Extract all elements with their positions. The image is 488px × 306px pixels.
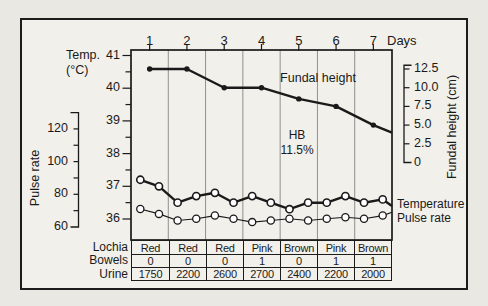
table-cell-lochia: Brown bbox=[280, 241, 317, 254]
table-cell-urine: 2200 bbox=[317, 267, 354, 280]
open-circle-marker bbox=[211, 189, 218, 196]
open-circle-marker bbox=[249, 218, 256, 225]
table-cell-urine: 1750 bbox=[132, 267, 169, 280]
temp-axis-unit: (°C) bbox=[66, 63, 88, 78]
table-cell-bowels: 1 bbox=[317, 254, 354, 267]
pulse-tick-label: 120 bbox=[38, 121, 68, 136]
table-cell-lochia: Pink bbox=[243, 241, 280, 254]
table-cell-lochia: Pink bbox=[317, 241, 354, 254]
open-circle-marker bbox=[379, 196, 386, 203]
open-circle-marker bbox=[267, 217, 274, 224]
open-circle-marker bbox=[342, 214, 349, 221]
filled-dot-marker bbox=[222, 85, 227, 90]
table-cell-bowels: 1 bbox=[354, 254, 391, 267]
open-circle-marker bbox=[379, 212, 386, 219]
table-cell-lochia: Red bbox=[132, 241, 169, 254]
temp-tick-label: 41 bbox=[92, 48, 120, 63]
filled-dot-marker bbox=[371, 122, 376, 127]
table-cell-bowels: 0 bbox=[132, 254, 169, 267]
day-label: 5 bbox=[287, 33, 311, 48]
fundal-tick-label: 2.5 bbox=[414, 136, 431, 151]
temp-tick-label: 36 bbox=[92, 211, 120, 226]
table-cell-urine: 2700 bbox=[243, 267, 280, 280]
open-circle-marker bbox=[155, 210, 162, 217]
day-label: 1 bbox=[138, 33, 162, 48]
days-axis-label: Days bbox=[387, 33, 417, 48]
filled-dot-marker bbox=[184, 66, 189, 71]
temp-tick-label: 40 bbox=[92, 80, 120, 95]
scanned-chart-page: Temp. (°C) Pulse rate Fundal height (cm)… bbox=[0, 0, 488, 306]
table-cell-urine: 2200 bbox=[169, 267, 206, 280]
table-cell-lochia: Red bbox=[206, 241, 243, 254]
hb-annotation: HB 11.5% bbox=[280, 128, 313, 158]
table-cell-urine: 2600 bbox=[206, 267, 243, 280]
temp-tick-label: 37 bbox=[92, 178, 120, 193]
open-circle-marker bbox=[211, 212, 218, 219]
open-circle-marker bbox=[305, 199, 312, 206]
table-cell-bowels: 1 bbox=[243, 254, 280, 267]
filled-dot-marker bbox=[147, 66, 152, 71]
fundal-axis-title: Fundal height (cm) bbox=[445, 75, 460, 179]
open-circle-marker bbox=[249, 193, 256, 200]
table-cell-bowels: 0 bbox=[169, 254, 206, 267]
table-cell-urine: 2000 bbox=[354, 267, 391, 280]
table-cell-urine: 2400 bbox=[280, 267, 317, 280]
fundal-series-label: Fundal height bbox=[280, 71, 356, 86]
temperature-series-label: Temperature bbox=[397, 197, 464, 212]
table-cell-bowels: 0 bbox=[206, 254, 243, 267]
open-circle-marker bbox=[230, 199, 237, 206]
day-label: 2 bbox=[175, 33, 199, 48]
hb-annotation-line2: 11.5% bbox=[280, 143, 313, 158]
open-circle-marker bbox=[305, 217, 312, 224]
filled-dot-marker bbox=[259, 85, 264, 90]
table-cell-lochia: Red bbox=[169, 241, 206, 254]
day-label: 4 bbox=[250, 33, 274, 48]
open-circle-marker bbox=[267, 199, 274, 206]
pulse-tick-label: 100 bbox=[38, 154, 68, 169]
open-circle-marker bbox=[174, 199, 181, 206]
open-circle-marker bbox=[360, 199, 367, 206]
filled-dot-marker bbox=[333, 104, 338, 109]
table-cell-bowels: 0 bbox=[280, 254, 317, 267]
fundal-tick-label: 5.0 bbox=[414, 117, 431, 132]
open-circle-marker bbox=[193, 215, 200, 222]
table-cell-lochia: Brown bbox=[354, 241, 391, 254]
fundal-axis-bracket bbox=[404, 65, 412, 162]
pulse-tick-label: 80 bbox=[38, 186, 68, 201]
open-circle-marker bbox=[230, 215, 237, 222]
fundal-tick-label: 7.5 bbox=[414, 98, 431, 113]
pulse-axis-bracket bbox=[71, 113, 79, 227]
pulse-series-label: Pulse rate bbox=[397, 211, 451, 226]
day-label: 7 bbox=[361, 33, 385, 48]
fundal-tick-label: 12.5 bbox=[414, 61, 438, 76]
open-circle-marker bbox=[323, 199, 330, 206]
pulse-tick-label: 60 bbox=[38, 219, 68, 234]
open-circle-marker bbox=[193, 193, 200, 200]
filled-dot-marker bbox=[296, 96, 301, 101]
open-circle-marker bbox=[137, 205, 144, 212]
open-circle-marker bbox=[286, 215, 293, 222]
open-circle-marker bbox=[174, 217, 181, 224]
temp-tick-label: 39 bbox=[92, 113, 120, 128]
open-circle-marker bbox=[137, 176, 144, 183]
open-circle-marker bbox=[342, 193, 349, 200]
day-label: 3 bbox=[212, 33, 236, 48]
hb-annotation-line1: HB bbox=[280, 128, 313, 143]
open-circle-marker bbox=[155, 183, 162, 190]
temp-tick-label: 38 bbox=[92, 146, 120, 161]
open-circle-marker bbox=[323, 215, 330, 222]
observations-table: RedRedRedPinkBrownPinkBrown0001011175022… bbox=[131, 240, 392, 281]
fundal-tick-label: 10.0 bbox=[414, 80, 438, 95]
open-circle-marker bbox=[360, 215, 367, 222]
open-circle-marker bbox=[286, 206, 293, 213]
table-row-label: Urine bbox=[38, 267, 128, 282]
day-label: 6 bbox=[324, 33, 348, 48]
fundal-tick-label: 0 bbox=[414, 155, 421, 170]
